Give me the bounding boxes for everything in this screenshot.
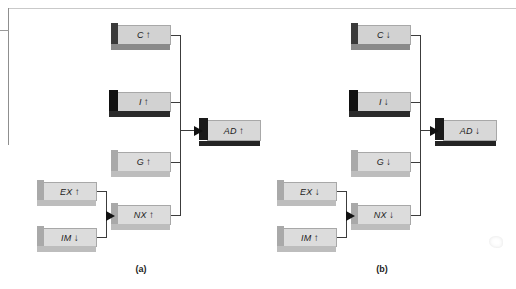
node-ex-arrow-panel-a: ↑ [75,187,80,197]
arrowhead-ad-panel-a [194,126,203,136]
node-im-panel-a[interactable]: IM ↓ [43,228,97,247]
node-i-label-panel-b: I [379,97,382,107]
node-ad-arrow-panel-a: ↑ [239,126,244,136]
node-ad-label-panel-a: AD [224,126,237,136]
node-nx-label-panel-b: NX [374,210,387,220]
page-scan-top-rule [8,8,516,9]
connector-bus-panel-a [180,35,181,216]
caption-panel-a: (a) [121,264,161,274]
node-nx-panel-b[interactable]: NX ↓ [357,205,411,225]
caption-panel-b: (b) [362,264,402,274]
node-ex-panel-a[interactable]: EX ↑ [43,182,97,201]
arrowhead-nx-panel-a [106,211,115,221]
node-i-arrow-panel-a: ↑ [144,97,149,107]
node-im-label-panel-a: IM [61,233,72,243]
node-nx-arrow-panel-a: ↑ [149,210,154,220]
node-ad-panel-a[interactable]: AD ↑ [207,120,261,141]
figure-canvas: C ↑ I ↑ G ↑ NX ↑ EX ↑ IM ↓ AD [0,0,516,289]
scan-artifact [489,236,503,248]
node-c-label-panel-b: C [377,30,384,40]
node-g-label-panel-a: G [137,157,144,167]
node-i-panel-b[interactable]: I ↓ [357,92,411,112]
node-g-arrow-panel-b: ↓ [386,157,391,167]
node-nx-label-panel-a: NX [134,210,147,220]
node-c-panel-a[interactable]: C ↑ [117,25,171,45]
node-ad-arrow-panel-b: ↓ [475,126,480,136]
node-nx-panel-a[interactable]: NX ↑ [117,205,171,225]
node-im-arrow-panel-a: ↓ [74,233,79,243]
arrowhead-ad-panel-b [430,126,439,136]
node-ex-arrow-panel-b: ↓ [315,187,320,197]
node-ex-label-panel-a: EX [60,187,73,197]
node-ad-label-panel-b: AD [460,126,473,136]
node-g-label-panel-b: G [377,157,384,167]
node-ad-panel-b[interactable]: AD ↓ [443,120,497,141]
node-nx-arrow-panel-b: ↓ [389,210,394,220]
node-i-panel-a[interactable]: I ↑ [117,92,171,112]
page-scan-left-rule [8,8,9,145]
node-ex-panel-b[interactable]: EX ↓ [283,182,337,201]
node-i-arrow-panel-b: ↓ [384,97,389,107]
node-g-panel-b[interactable]: G ↓ [357,152,411,172]
connector-bus-panel-b [420,35,421,216]
page-scan-left-tick [0,30,9,31]
node-im-arrow-panel-b: ↑ [314,233,319,243]
node-ex-label-panel-b: EX [300,187,313,197]
node-c-arrow-panel-b: ↓ [386,30,391,40]
arrowhead-nx-panel-b [346,211,355,221]
node-im-panel-b[interactable]: IM ↑ [283,228,337,247]
node-c-arrow-panel-a: ↑ [146,30,151,40]
node-i-label-panel-a: I [139,97,142,107]
node-c-label-panel-a: C [137,30,144,40]
node-im-label-panel-b: IM [301,233,312,243]
node-g-panel-a[interactable]: G ↑ [117,152,171,172]
node-c-panel-b[interactable]: C ↓ [357,25,411,45]
node-g-arrow-panel-a: ↑ [146,157,151,167]
